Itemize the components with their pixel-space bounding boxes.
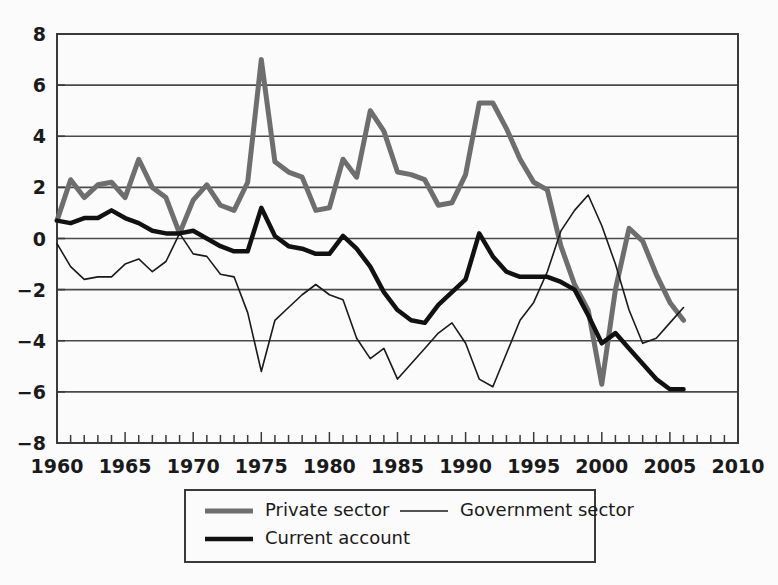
x-axis-tick-label: 1960 <box>31 455 84 477</box>
x-axis-tick-label: 1965 <box>99 455 152 477</box>
x-axis-tick-label: 1975 <box>235 455 288 477</box>
y-axis-tick-label: −6 <box>17 381 46 403</box>
legend-label-government-sector: Government sector <box>460 499 634 520</box>
x-axis-tick-label: 1970 <box>167 455 220 477</box>
y-axis-tick-label: 2 <box>33 176 46 198</box>
legend-label-current-account: Current account <box>265 527 410 548</box>
chart-legend: Private sectorGovernment sectorCurrent a… <box>185 490 634 562</box>
x-axis-tick-label: 2005 <box>643 455 696 477</box>
y-axis-tick-label: −8 <box>17 432 46 454</box>
y-axis-tick-label: 6 <box>33 74 46 96</box>
line-chart: 86420−2−4−6−8 19601965197019751980198519… <box>0 0 778 585</box>
chart-page: 86420−2−4−6−8 19601965197019751980198519… <box>0 0 778 585</box>
x-axis-tick-label: 2010 <box>712 455 765 477</box>
y-axis-tick-label: 8 <box>33 23 46 45</box>
x-axis-tick-label: 2000 <box>575 455 628 477</box>
x-axis-tick-label: 1990 <box>439 455 492 477</box>
y-axis-tick-label: 0 <box>33 228 46 250</box>
y-axis-tick-label: −4 <box>17 330 46 352</box>
y-axis-tick-label: 4 <box>33 125 46 147</box>
x-axis-tick-label: 1995 <box>507 455 560 477</box>
x-axis-tick-label: 1985 <box>371 455 424 477</box>
y-axis-tick-label: −2 <box>17 279 46 301</box>
x-axis-tick-labels: 1960196519701975198019851990199520002005… <box>31 455 765 477</box>
x-axis-tick-label: 1980 <box>303 455 356 477</box>
legend-label-private-sector: Private sector <box>265 499 390 520</box>
